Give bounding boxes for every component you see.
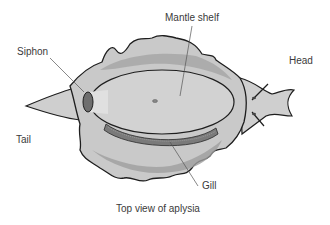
label-gill: Gill: [202, 180, 216, 191]
diagram-caption: Top view of aplysia: [116, 203, 200, 214]
aplysia-illustration: [0, 0, 330, 225]
mantle-pore: [153, 100, 158, 103]
label-head: Head: [289, 55, 313, 66]
mantle-shelf: [90, 70, 234, 134]
label-mantle-shelf: Mantle shelf: [165, 12, 219, 23]
eye-upper: [252, 97, 256, 99]
eye-lower: [252, 113, 256, 115]
head-shape: [240, 78, 294, 134]
label-tail: Tail: [16, 134, 31, 145]
leader-siphon: [50, 58, 84, 92]
label-siphon: Siphon: [17, 46, 48, 57]
siphon-opening: [83, 92, 93, 112]
